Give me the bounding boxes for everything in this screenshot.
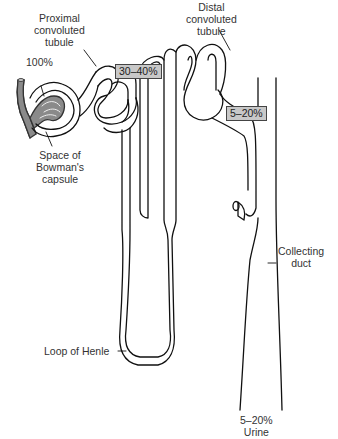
proximal-label-line2: convoluted <box>34 24 85 36</box>
proximal-label-line1: Proximal <box>34 12 85 24</box>
collecting-label-line1: Collecting <box>278 245 324 257</box>
collecting-label-line2: duct <box>278 257 324 269</box>
distal-label: Distal convoluted tubule <box>186 1 237 37</box>
distal-label-line1: Distal <box>186 1 237 13</box>
distal-label-line2: convoluted <box>186 13 237 25</box>
collecting-duct-label: Collecting duct <box>278 245 324 269</box>
urine-text: Urine <box>240 426 273 438</box>
bowman-label: Space of Bowman's capsule <box>36 149 84 185</box>
collecting-duct <box>240 78 282 410</box>
bowman-label-line3: capsule <box>36 173 84 185</box>
distal-label-line3: tubule <box>186 25 237 37</box>
proximal-percentage-box: 30–40% <box>115 64 162 79</box>
bowman-label-line2: Bowman's <box>36 161 84 173</box>
urine-percentage: 5–20% <box>240 414 273 426</box>
distal-percentage-box: 5–20% <box>226 106 267 121</box>
glomerulus-percentage: 100% <box>26 56 53 68</box>
proximal-label-line3: tubule <box>34 36 85 48</box>
henle-label: Loop of Henle <box>44 345 109 357</box>
bowman-label-line1: Space of <box>36 149 84 161</box>
urine-label: 5–20% Urine <box>240 414 273 438</box>
proximal-label: Proximal convoluted tubule <box>34 12 85 48</box>
